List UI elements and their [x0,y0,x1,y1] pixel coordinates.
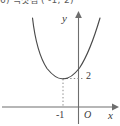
x-tick-label-minus-1: -1 [56,110,64,120]
origin-label: O [84,110,91,120]
y-axis-label: y [62,13,67,24]
parabola-plot [0,0,120,126]
x-axis-label: x [108,110,113,121]
y-tick-label-2: 2 [86,71,91,81]
parabola-figure: 6) 꼭짓점 ( -1, 2) y x O -1 2 [0,0,120,126]
